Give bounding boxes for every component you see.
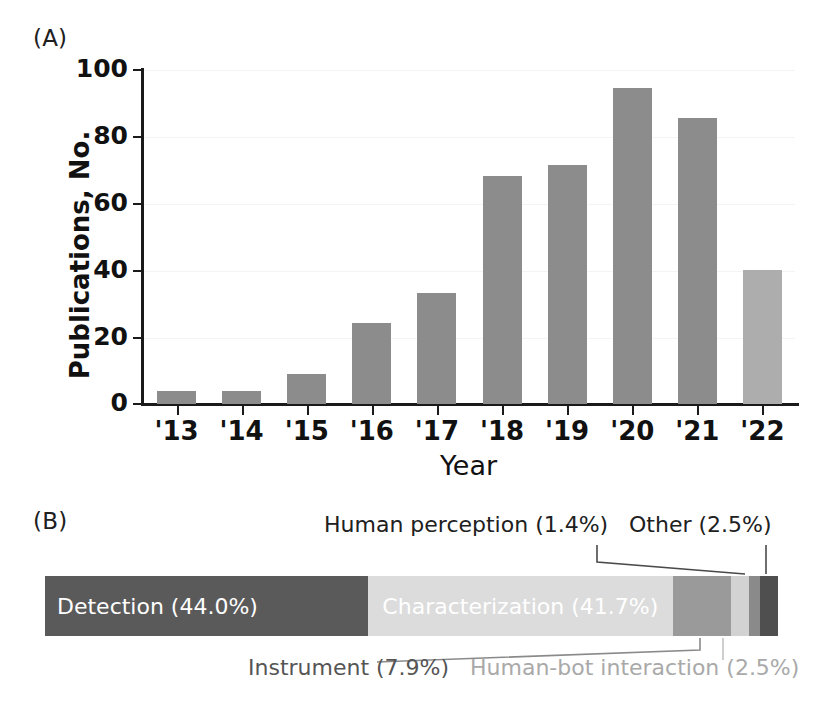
segment-label-detection: Detection (44.0%) — [57, 594, 258, 619]
x-tick-label-y20: '20 — [597, 416, 667, 446]
x-tick-y15 — [307, 406, 309, 415]
segment-other — [760, 576, 778, 636]
stacked-bar: Detection (44.0%)Characterization (41.7%… — [45, 576, 778, 636]
y-tick-40 — [133, 270, 142, 272]
x-tick-label-y19: '19 — [532, 416, 602, 446]
segment-detection: Detection (44.0%) — [45, 576, 368, 636]
x-tick-label-y22: '22 — [727, 416, 797, 446]
x-tick-label-y18: '18 — [467, 416, 537, 446]
x-tick-y13 — [177, 406, 179, 415]
x-axis-title: Year — [142, 450, 795, 481]
segment-label-characterization: Characterization (41.7%) — [382, 594, 658, 619]
y-tick-80 — [133, 136, 142, 138]
segment-instrument — [673, 576, 731, 636]
x-tick-y22 — [762, 406, 764, 415]
x-tick-y18 — [502, 406, 504, 415]
y-axis-title-wrap: Publications, No. — [30, 90, 70, 390]
segment-human-perception — [749, 576, 759, 636]
bar-y21 — [678, 118, 717, 404]
panel-b-stacked-bar: (B) Human perception (1.4%) Other (2.5%)… — [0, 500, 823, 724]
segment-characterization: Characterization (41.7%) — [368, 576, 674, 636]
bar-y20 — [613, 88, 652, 404]
bar-y19 — [548, 165, 587, 404]
x-tick-label-y17: '17 — [402, 416, 472, 446]
panel-a-label: (A) — [33, 25, 67, 51]
bar-y22 — [743, 270, 782, 404]
y-axis-title: Publications, No. — [65, 95, 95, 415]
bars-container — [144, 68, 795, 404]
callout-human-perception: Human perception (1.4%) — [324, 512, 608, 537]
y-tick-60 — [133, 203, 142, 205]
bar-y15 — [287, 374, 326, 404]
x-tick-label-y16: '16 — [337, 416, 407, 446]
callout-human-bot-interaction: Human-bot interaction (2.5%) — [470, 655, 799, 680]
callout-instrument: Instrument (7.9%) — [248, 655, 449, 680]
y-tick-20 — [133, 337, 142, 339]
bar-y18 — [483, 176, 522, 404]
bar-y17 — [417, 293, 456, 404]
y-tick-100 — [133, 69, 142, 71]
bar-y14 — [222, 391, 261, 404]
x-tick-y16 — [372, 406, 374, 415]
x-tick-label-y15: '15 — [272, 416, 342, 446]
x-tick-y14 — [242, 406, 244, 415]
x-tick-label-y13: '13 — [142, 416, 212, 446]
x-tick-y20 — [632, 406, 634, 415]
panel-a-bar-chart: (A) 100 80 60 40 20 0 Publications, No. … — [0, 0, 823, 500]
bar-y16 — [352, 323, 391, 404]
x-tick-label-y21: '21 — [662, 416, 732, 446]
segment-human-bot-interaction — [731, 576, 749, 636]
x-tick-label-y14: '14 — [207, 416, 277, 446]
bar-y13 — [157, 391, 196, 404]
x-tick-y19 — [567, 406, 569, 415]
x-tick-y17 — [437, 406, 439, 415]
y-tick-0 — [133, 403, 142, 405]
callout-other: Other (2.5%) — [629, 512, 772, 537]
y-tick-label-100: 100 — [68, 56, 128, 81]
x-tick-y21 — [697, 406, 699, 415]
